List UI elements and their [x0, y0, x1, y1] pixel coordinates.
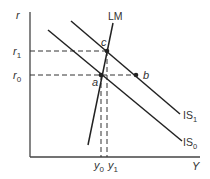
is1-label: IS1: [183, 109, 197, 124]
point-b-label: b: [143, 69, 149, 81]
lm-label: LM: [108, 10, 123, 22]
is0-label: IS0: [183, 136, 197, 151]
r1-label: r1: [13, 45, 22, 60]
y0-label: y0: [93, 159, 105, 174]
y-axis-label: r: [16, 9, 21, 21]
point-c-label: c: [101, 36, 107, 48]
y1-label: y1: [107, 159, 119, 174]
point-a-label: a: [92, 76, 98, 88]
r0-label: r0: [13, 69, 22, 84]
point-b: [134, 73, 139, 78]
is-lm-diagram: r Y r1 r0 y0 y1 LM IS1 IS0 a b c: [0, 0, 210, 179]
is1-curve: [71, 21, 180, 114]
is0-curve: [48, 30, 182, 141]
point-c: [105, 49, 110, 54]
x-axis-label: Y: [192, 160, 200, 172]
point-a: [99, 73, 104, 78]
